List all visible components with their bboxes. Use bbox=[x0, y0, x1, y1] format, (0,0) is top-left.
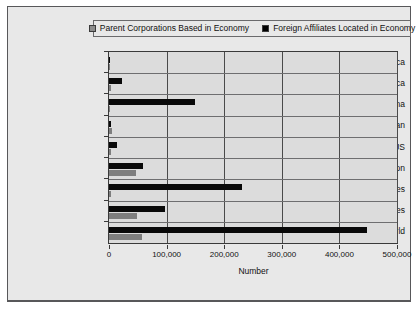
x-tick-label: 400,000 bbox=[325, 250, 354, 259]
bar-parent-corporations bbox=[109, 64, 110, 70]
x-tick bbox=[224, 245, 225, 249]
x-axis-title: Number bbox=[108, 266, 399, 276]
bar-row bbox=[109, 73, 397, 94]
bar-foreign-affiliates bbox=[109, 163, 143, 169]
bar-foreign-affiliates bbox=[109, 57, 110, 63]
bar-parent-corporations bbox=[109, 106, 110, 112]
x-tick-label: 100,000 bbox=[152, 250, 181, 259]
x-tick-label: 500,000 bbox=[383, 250, 412, 259]
x-tick bbox=[397, 245, 398, 249]
category-separator bbox=[109, 137, 397, 138]
x-tick bbox=[167, 245, 168, 249]
bar-row bbox=[109, 116, 397, 137]
bar-row bbox=[109, 158, 397, 179]
legend-item-foreign-affiliates: Foreign Affiliates Located in Economy bbox=[262, 24, 415, 33]
bar-foreign-affiliates bbox=[109, 184, 242, 190]
category-separator bbox=[109, 158, 397, 159]
x-tick-label: 0 bbox=[107, 250, 111, 259]
category-separator bbox=[109, 201, 397, 202]
category-separator bbox=[109, 179, 397, 180]
bar-foreign-affiliates bbox=[109, 99, 195, 105]
plot-area bbox=[108, 51, 398, 244]
bar-row bbox=[109, 222, 397, 243]
bar-foreign-affiliates bbox=[109, 121, 111, 127]
bar-parent-corporations bbox=[109, 191, 111, 197]
category-separator bbox=[109, 73, 397, 74]
legend-label-foreign-affiliates: Foreign Affiliates Located in Economy bbox=[273, 24, 415, 33]
gridline bbox=[397, 52, 398, 243]
bar-rows bbox=[109, 52, 397, 243]
bar-foreign-affiliates bbox=[109, 206, 165, 212]
bar-row bbox=[109, 52, 397, 73]
x-axis: 0100,000200,000300,000400,000500,000 bbox=[108, 245, 399, 265]
bottom-rule bbox=[7, 300, 411, 302]
category-separator bbox=[109, 222, 397, 223]
bar-parent-corporations bbox=[109, 128, 112, 134]
bar-parent-corporations bbox=[109, 234, 142, 240]
legend-label-parent-corporations: Parent Corporations Based in Economy bbox=[100, 24, 249, 33]
chart-legend: Parent Corporations Based in Economy For… bbox=[93, 20, 411, 37]
category-separator bbox=[109, 116, 397, 117]
legend-item-parent-corporations: Parent Corporations Based in Economy bbox=[89, 24, 249, 33]
bar-parent-corporations bbox=[109, 170, 136, 176]
x-tick bbox=[282, 245, 283, 249]
x-tick bbox=[109, 245, 110, 249]
chart-panel: Parent Corporations Based in Economy For… bbox=[7, 6, 411, 301]
bar-row bbox=[109, 179, 397, 200]
bar-parent-corporations bbox=[109, 149, 111, 155]
bar-foreign-affiliates bbox=[109, 142, 117, 148]
x-tick-label: 300,000 bbox=[267, 250, 296, 259]
category-separator bbox=[109, 94, 397, 95]
legend-swatch-black-icon bbox=[262, 25, 269, 32]
chart-screenshot: Parent Corporations Based in Economy For… bbox=[0, 0, 418, 311]
legend-swatch-gray-icon bbox=[89, 25, 96, 32]
bar-row bbox=[109, 94, 397, 115]
bar-parent-corporations bbox=[109, 213, 137, 219]
bar-foreign-affiliates bbox=[109, 78, 122, 84]
x-tick bbox=[339, 245, 340, 249]
bar-row bbox=[109, 201, 397, 222]
bar-foreign-affiliates bbox=[109, 227, 367, 233]
bar-row bbox=[109, 137, 397, 158]
bar-parent-corporations bbox=[109, 85, 111, 91]
x-tick-label: 200,000 bbox=[210, 250, 239, 259]
